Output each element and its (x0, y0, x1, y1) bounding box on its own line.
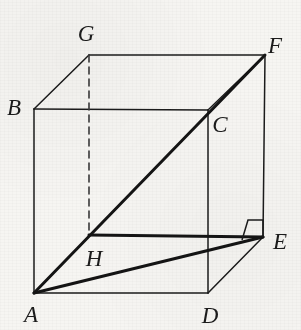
edge-BG (34, 55, 89, 109)
prism-diagram-svg (0, 0, 301, 330)
edge-BC (34, 109, 208, 110)
edge-DE (208, 237, 263, 293)
vertex-label-C: C (212, 113, 227, 136)
vertex-label-B: B (7, 96, 21, 119)
vertex-label-F: F (268, 34, 282, 57)
geometry-figure: ABCDEFGH (0, 0, 301, 330)
edge-AF (34, 55, 265, 293)
vertex-label-E: E (273, 230, 287, 253)
edge-AE (34, 237, 263, 293)
edge-HE (89, 235, 263, 237)
vertex-label-D: D (202, 304, 219, 327)
vertex-label-A: A (24, 303, 38, 326)
vertex-label-G: G (78, 22, 95, 45)
edge-EF (263, 55, 265, 237)
vertex-label-H: H (86, 247, 103, 270)
